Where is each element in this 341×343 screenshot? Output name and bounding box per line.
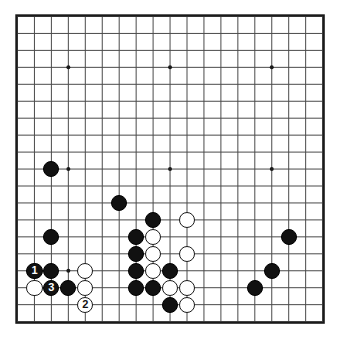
stone-move-1[interactable]: 1 xyxy=(26,263,42,279)
stone-black[interactable] xyxy=(145,280,161,296)
stone-white[interactable] xyxy=(77,280,93,296)
star-point xyxy=(66,65,70,69)
stone-black[interactable] xyxy=(128,246,144,262)
stone-white[interactable] xyxy=(179,246,195,262)
stone-white[interactable] xyxy=(145,263,161,279)
stone-black[interactable] xyxy=(128,280,144,296)
stone-white[interactable] xyxy=(26,280,42,296)
star-point xyxy=(168,65,172,69)
star-point xyxy=(168,167,172,171)
stone-white[interactable] xyxy=(145,246,161,262)
stone-move-3[interactable]: 3 xyxy=(43,280,59,296)
stone-black[interactable] xyxy=(128,263,144,279)
stone-black[interactable] xyxy=(247,280,263,296)
stone-black[interactable] xyxy=(281,229,297,245)
star-point xyxy=(270,65,274,69)
stone-black[interactable] xyxy=(128,229,144,245)
stone-black[interactable] xyxy=(162,297,178,313)
star-point xyxy=(66,167,70,171)
stone-move-2[interactable]: 2 xyxy=(77,297,93,313)
stone-white[interactable] xyxy=(179,297,195,313)
stone-white[interactable] xyxy=(145,229,161,245)
go-board-diagram: 132 xyxy=(0,0,341,343)
stone-white[interactable] xyxy=(179,212,195,228)
stone-white[interactable] xyxy=(162,280,178,296)
star-point xyxy=(66,269,70,273)
star-point xyxy=(270,167,274,171)
stone-white[interactable] xyxy=(179,280,195,296)
stone-black[interactable] xyxy=(162,263,178,279)
stone-black[interactable] xyxy=(145,212,161,228)
move-number-label: 1 xyxy=(27,264,41,278)
stone-black[interactable] xyxy=(264,263,280,279)
move-number-label: 3 xyxy=(44,281,58,295)
move-number-label: 2 xyxy=(78,298,92,312)
